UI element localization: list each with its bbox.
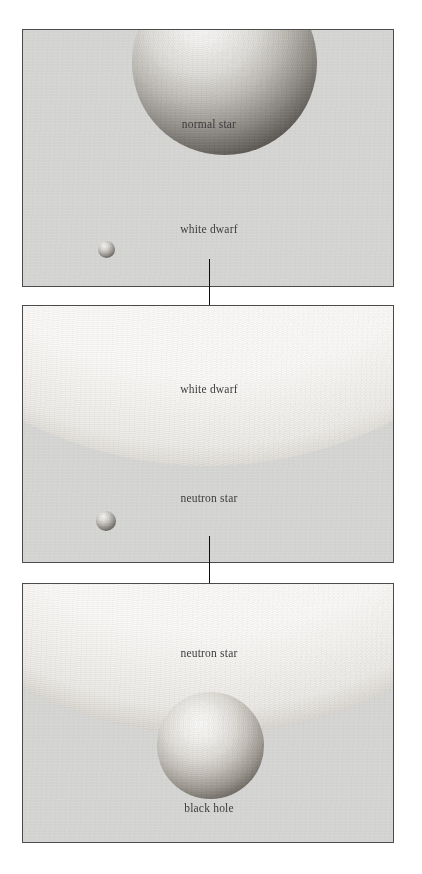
sphere-grain-texture [132, 29, 317, 155]
stellar-remnant-figure: normal star white dwarf white dwarf neut… [0, 0, 422, 874]
label-neutron-star-small: neutron star [23, 492, 394, 504]
label-neutron-star-large: neutron star [23, 647, 394, 659]
neutron-star-sphere [96, 511, 116, 531]
panel-normal-star-white-dwarf: normal star white dwarf [22, 29, 394, 287]
panel-neutron-star-black-hole: neutron star black hole [22, 583, 394, 843]
label-normal-star: normal star [23, 118, 394, 130]
sphere-grain-texture [157, 692, 264, 799]
label-white-dwarf-large: white dwarf [23, 383, 394, 395]
sphere-grain-texture [96, 511, 116, 531]
panel-white-dwarf-neutron-star: white dwarf neutron star [22, 305, 394, 563]
label-white-dwarf-small: white dwarf [23, 223, 394, 235]
white-dwarf-sphere [98, 241, 115, 258]
black-hole-sphere [157, 692, 264, 799]
normal-star-sphere [132, 29, 317, 155]
label-black-hole: black hole [23, 802, 394, 814]
sphere-grain-texture [98, 241, 115, 258]
